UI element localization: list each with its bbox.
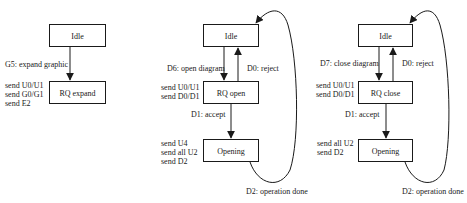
state-label: RQ close bbox=[371, 89, 401, 98]
transition-label: D2: operation done bbox=[402, 187, 464, 196]
transition-label: D0: reject bbox=[247, 64, 280, 73]
action-item: send U0/U1 bbox=[161, 83, 199, 92]
diagram-close: Idle D7: close diagram D0: reject RQ clo… bbox=[316, 11, 464, 196]
action-item: send D2 bbox=[161, 157, 187, 166]
state-label: RQ expand bbox=[59, 89, 95, 98]
state-opening: Opening bbox=[359, 140, 413, 162]
state-label: Idle bbox=[379, 32, 392, 41]
transition-label: D2: operation done bbox=[246, 187, 308, 196]
state-rq-open: RQ open bbox=[204, 82, 259, 104]
action-list-request: send U0/U1 send D0/D1 bbox=[316, 81, 354, 99]
action-item: send D0/D1 bbox=[161, 92, 199, 101]
action-item: send all U2 bbox=[317, 139, 353, 148]
action-list: send U0/U1 send G0/G1 send E2 bbox=[5, 81, 43, 108]
action-item: send all U2 bbox=[161, 148, 197, 157]
action-list-opening: send U4 send all U2 send D2 bbox=[161, 139, 197, 166]
action-list-request: send U0/U1 send D0/D1 bbox=[161, 83, 199, 101]
action-item: send D2 bbox=[317, 148, 343, 157]
state-rq-expand: RQ expand bbox=[50, 82, 106, 104]
state-rq-close: RQ close bbox=[359, 82, 413, 104]
transition-label: D1: accept bbox=[345, 110, 380, 119]
transition-label: G5: expand graphic bbox=[5, 60, 69, 69]
state-label: Opening bbox=[217, 147, 245, 156]
state-label: Opening bbox=[372, 147, 400, 156]
state-label: Idle bbox=[225, 32, 238, 41]
action-item: send U0/U1 bbox=[316, 81, 354, 90]
state-idle: Idle bbox=[204, 25, 259, 47]
action-item: send E2 bbox=[5, 99, 31, 108]
state-opening: Opening bbox=[204, 140, 259, 162]
diagram-expand: Idle G5: expand graphic RQ expand send U… bbox=[5, 25, 106, 109]
state-idle: Idle bbox=[359, 25, 413, 47]
action-item: send D0/D1 bbox=[316, 90, 354, 99]
transition-label: D6: open diagram bbox=[167, 64, 226, 73]
transition-label: D0: reject bbox=[402, 59, 435, 68]
action-item: send U4 bbox=[161, 139, 187, 148]
action-item: send U0/U1 bbox=[5, 81, 43, 90]
transition-label: D1: accept bbox=[191, 110, 226, 119]
state-label: RQ open bbox=[217, 89, 246, 98]
diagram-open: Idle D6: open diagram D0: reject RQ open… bbox=[161, 11, 308, 196]
state-label: Idle bbox=[71, 32, 84, 41]
transition-label: D7: close diagram bbox=[320, 59, 379, 68]
action-item: send G0/G1 bbox=[5, 90, 43, 99]
action-list-opening: send all U2 send D2 bbox=[317, 139, 353, 157]
state-diagrams: Idle G5: expand graphic RQ expand send U… bbox=[0, 0, 467, 203]
state-idle: Idle bbox=[50, 25, 106, 47]
